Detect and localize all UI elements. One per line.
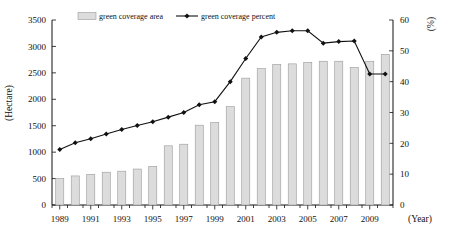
x-axis-tick-label: 2007	[330, 214, 349, 224]
bar-1991	[87, 174, 95, 205]
chart-canvas: 0500100015002000250030003500010203040506…	[0, 0, 450, 240]
y-axis-left-title: (Hectare)	[4, 85, 15, 121]
y-axis-right-title: (%)	[426, 17, 437, 31]
data-point-1997	[181, 110, 186, 115]
y-axis-left-tick-label: 2000	[28, 94, 47, 104]
y-axis-left-tick-label: 3500	[28, 15, 47, 25]
data-point-1992	[104, 132, 109, 137]
data-point-2004	[290, 28, 295, 33]
y-axis-left-tick-label: 500	[33, 174, 47, 184]
legend-swatch-area	[78, 13, 96, 20]
data-point-1995	[150, 119, 155, 124]
bar-1999	[211, 123, 219, 205]
bar-2009	[366, 61, 374, 205]
x-axis-tick-label: 2003	[268, 214, 287, 224]
bar-1994	[133, 169, 141, 205]
y-axis-right-tick-label: 40	[400, 77, 410, 87]
y-axis-right-tick-label: 30	[400, 108, 410, 118]
bar-2005	[304, 62, 312, 205]
x-axis-tick-label: 1991	[82, 214, 100, 224]
data-point-2008	[352, 38, 357, 43]
bar-1990	[71, 176, 79, 205]
data-point-1989	[57, 147, 62, 152]
bar-2000	[226, 107, 234, 205]
data-point-2003	[274, 30, 279, 35]
bar-2004	[288, 64, 296, 205]
bar-1996	[164, 146, 172, 205]
x-axis-tick-label: 1989	[51, 214, 70, 224]
x-axis-tick-label: 1997	[175, 214, 194, 224]
y-axis-right-tick-label: 50	[400, 46, 410, 56]
data-point-1990	[73, 140, 78, 145]
data-point-1998	[197, 102, 202, 107]
x-axis-tick-label: 1993	[113, 214, 132, 224]
green-coverage-chart: 0500100015002000250030003500010203040506…	[0, 0, 450, 240]
y-axis-left-tick-label: 3000	[28, 42, 47, 52]
bar-2003	[273, 64, 281, 205]
bar-2001	[242, 78, 250, 205]
x-axis-tick-label: 2005	[299, 214, 318, 224]
y-axis-left-tick-label: 1500	[28, 121, 47, 131]
data-point-2007	[336, 39, 341, 44]
bar-1992	[102, 172, 110, 205]
x-axis-tick-label: 2001	[237, 214, 255, 224]
y-axis-right-tick-label: 10	[400, 169, 410, 179]
bar-1989	[56, 179, 64, 205]
legend-marker-percent	[184, 13, 189, 18]
data-point-1993	[119, 127, 124, 132]
y-axis-left-tick-label: 2500	[28, 68, 47, 78]
legend-label-area: green coverage area	[99, 12, 163, 21]
bar-2007	[335, 61, 343, 205]
y-axis-left-tick-label: 1000	[28, 147, 47, 157]
legend-label-percent: green coverage percent	[201, 12, 276, 21]
data-point-1994	[135, 123, 140, 128]
data-point-1991	[88, 136, 93, 141]
bar-2002	[257, 69, 265, 205]
y-axis-right-tick-label: 20	[400, 139, 410, 149]
bar-1997	[180, 144, 188, 205]
y-axis-right-tick-label: 0	[400, 200, 405, 210]
x-axis-tick-label: 1999	[206, 214, 225, 224]
bar-1993	[118, 171, 126, 205]
x-axis-tick-label: 2009	[361, 214, 380, 224]
bar-2010	[381, 54, 389, 205]
y-axis-right-tick-label: 60	[400, 15, 410, 25]
bar-2008	[350, 68, 358, 205]
bar-2006	[319, 61, 327, 205]
bar-1998	[195, 125, 203, 205]
data-point-1996	[166, 115, 171, 120]
x-axis-tick-label: 1995	[144, 214, 163, 224]
x-axis-title: (Year)	[408, 214, 432, 225]
y-axis-left-tick-label: 0	[42, 200, 47, 210]
bar-1995	[149, 166, 157, 205]
